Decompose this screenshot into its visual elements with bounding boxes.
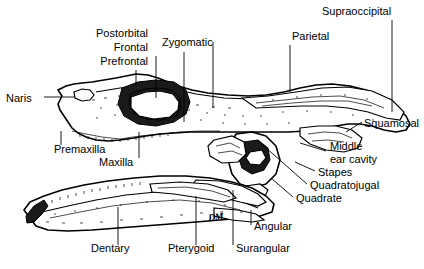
label-pterygoid: Pterygoid: [168, 243, 214, 254]
label-middle-ear-line2: ear cavity: [330, 154, 377, 165]
label-surangular: Surangular: [236, 243, 290, 254]
label-naris: Naris: [6, 93, 32, 104]
quadrate-leader: [271, 178, 293, 197]
label-parietal: Parietal: [292, 31, 329, 42]
label-supraoccipital: Supraoccipital: [322, 6, 391, 17]
label-angular: Angular: [254, 221, 292, 232]
label-frontal: Frontal: [68, 42, 148, 53]
label-premaxilla: Premaxilla: [54, 144, 105, 155]
label-quadrate: Quadrate: [296, 193, 342, 204]
label-squamosal: Squamosal: [364, 118, 419, 129]
stapes-leader: [295, 162, 315, 171]
label-stapes: Stapes: [318, 167, 352, 178]
artist-signature: DM.: [207, 210, 225, 223]
mandible-group: [24, 176, 274, 231]
label-maxilla: Maxilla: [99, 157, 133, 168]
figure-canvas: Postorbital Frontal Prefrontal Zygomatic…: [0, 0, 424, 269]
quadratojugal-bone: [208, 136, 246, 163]
label-prefrontal: Prefrontal: [58, 56, 148, 67]
label-zygomatic: Zygomatic: [162, 37, 213, 48]
label-middle-ear-line1: Middle: [330, 141, 362, 152]
naris-opening: [74, 89, 94, 101]
label-postorbital: Postorbital: [68, 28, 148, 39]
label-quadratojugal: Quadratojugal: [310, 180, 379, 191]
label-dentary: Dentary: [91, 243, 130, 254]
orbit-opening: [131, 91, 179, 119]
